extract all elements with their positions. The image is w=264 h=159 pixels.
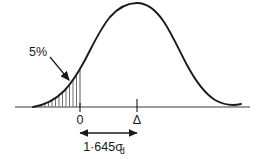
five-percent-pointer-arrow <box>50 57 69 80</box>
span-subscript-text: d <box>120 146 125 156</box>
figure-container: 5% 0 Δ 1·645σ d <box>0 0 264 159</box>
axis-label-delta: Δ <box>133 113 141 127</box>
distribution-diagram: 5% 0 Δ 1·645σ d <box>0 0 264 159</box>
span-measure-label: 1·645σ d <box>83 140 125 156</box>
span-value-text: 1·645σ <box>83 140 123 154</box>
axis-label-zero: 0 <box>77 113 84 127</box>
normal-density-curve <box>33 3 241 107</box>
tail-percent-label: 5% <box>29 45 47 59</box>
